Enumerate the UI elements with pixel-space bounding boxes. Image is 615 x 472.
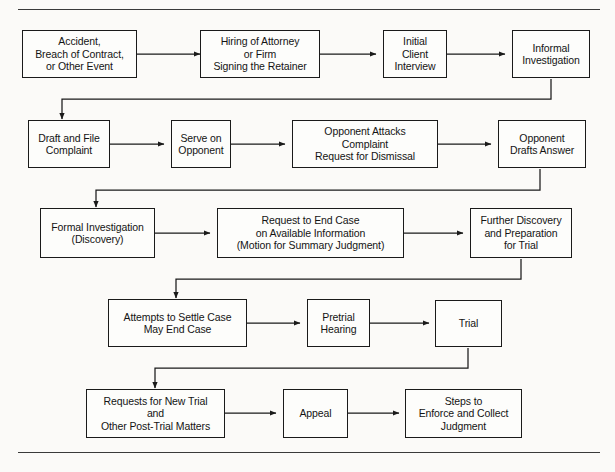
flowchart-canvas: Accident, Breach of Contract, or Other E… (0, 0, 615, 472)
node-further-discovery-preparation[interactable]: Further Discovery and Preparation for Tr… (470, 208, 572, 258)
node-request-to-end-case[interactable]: Request to End Case on Available Informa… (217, 208, 404, 258)
node-accident-breach-event[interactable]: Accident, Breach of Contract, or Other E… (22, 30, 137, 78)
edge-n14-n15 (155, 348, 468, 388)
node-steps-to-enforce-collect[interactable]: Steps to Enforce and Collect Judgment (405, 389, 522, 438)
edge-n11-n12 (176, 259, 521, 298)
node-formal-investigation-discovery[interactable]: Formal Investigation (Discovery) (40, 208, 155, 258)
node-appeal[interactable]: Appeal (283, 389, 348, 438)
node-trial[interactable]: Trial (435, 300, 502, 347)
node-serve-on-opponent[interactable]: Serve on Opponent (171, 120, 231, 168)
node-draft-file-complaint[interactable]: Draft and File Complaint (28, 120, 110, 168)
edge-n8-n9 (96, 169, 540, 207)
node-opponent-drafts-answer[interactable]: Opponent Drafts Answer (498, 120, 586, 168)
node-opponent-attacks-complaint[interactable]: Opponent Attacks Complaint Request for D… (292, 120, 438, 168)
node-attempts-to-settle-case[interactable]: Attempts to Settle Case May End Case (108, 299, 247, 347)
node-requests-for-new-trial[interactable]: Requests for New Trial and Other Post-Tr… (86, 389, 225, 438)
node-informal-investigation[interactable]: Informal Investigation (512, 30, 590, 78)
node-hiring-attorney[interactable]: Hiring of Attorney or Firm Signing the R… (200, 30, 320, 78)
edge-n4-n5 (62, 79, 551, 119)
top-rule (18, 9, 600, 10)
node-pretrial-hearing[interactable]: Pretrial Hearing (307, 299, 370, 347)
node-initial-client-interview[interactable]: Initial Client Interview (383, 30, 447, 78)
bottom-rule (18, 452, 600, 453)
